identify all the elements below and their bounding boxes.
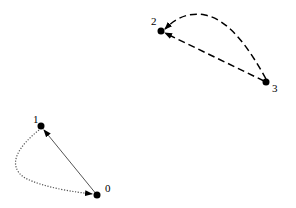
node-label-1: 1 bbox=[33, 113, 39, 125]
node-0 bbox=[94, 192, 101, 199]
node-label-0: 0 bbox=[105, 182, 111, 194]
node-label-2: 2 bbox=[151, 15, 157, 27]
edge-3-to-2-dashed-straight bbox=[165, 33, 264, 81]
graph-canvas: 0 1 2 3 bbox=[0, 0, 296, 208]
node-1 bbox=[38, 123, 45, 130]
node-2 bbox=[158, 28, 165, 35]
edge-0-to-1-solid bbox=[44, 130, 97, 195]
edge-1-to-0-dotted bbox=[16, 130, 92, 194]
node-3 bbox=[263, 79, 270, 86]
edge-3-to-2-dashed-curved bbox=[165, 14, 266, 79]
node-label-3: 3 bbox=[272, 82, 278, 94]
